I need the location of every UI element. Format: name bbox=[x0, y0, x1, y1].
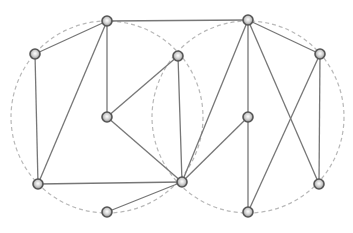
edge-n3-n8 bbox=[35, 54, 38, 184]
node-n1 bbox=[102, 16, 112, 26]
edge-n9-n11 bbox=[107, 182, 182, 212]
node-n5 bbox=[315, 49, 325, 59]
edge-n2-n9 bbox=[182, 20, 248, 182]
edge-n2-n5 bbox=[248, 20, 320, 54]
node-n4 bbox=[173, 51, 183, 61]
edge-n4-n9 bbox=[178, 56, 182, 182]
edge-n8-n9 bbox=[38, 182, 182, 184]
edge-n6-n9 bbox=[107, 117, 182, 182]
edge-n2-n10 bbox=[248, 20, 319, 184]
edge-n1-n8 bbox=[38, 21, 107, 184]
edge-n6-n4 bbox=[107, 56, 178, 117]
node-n11 bbox=[102, 207, 112, 217]
node-n2 bbox=[243, 15, 253, 25]
nodes bbox=[30, 15, 325, 217]
node-n8 bbox=[33, 179, 43, 189]
edge-n5-n12 bbox=[248, 54, 320, 212]
node-n7 bbox=[243, 112, 253, 122]
edge-n1-n2 bbox=[107, 20, 248, 21]
node-n6 bbox=[102, 112, 112, 122]
node-n9 bbox=[177, 177, 187, 187]
node-n10 bbox=[314, 179, 324, 189]
edge-n7-n9 bbox=[182, 117, 248, 182]
node-n3 bbox=[30, 49, 40, 59]
graph-diagram bbox=[0, 0, 353, 233]
node-n12 bbox=[243, 207, 253, 217]
edge-n5-n10 bbox=[319, 54, 320, 184]
edge-n1-n3 bbox=[35, 21, 107, 54]
